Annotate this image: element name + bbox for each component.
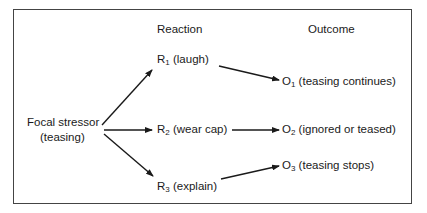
reaction-r1: R1 (laugh) bbox=[157, 53, 209, 66]
header-reaction: Reaction bbox=[157, 23, 202, 36]
arrow-r1-o1 bbox=[219, 66, 279, 80]
reaction-r2: R2 (wear cap) bbox=[157, 123, 227, 136]
outcome-o3: O3 (teasing stops) bbox=[282, 159, 374, 172]
stressor-line2: (teasing) bbox=[40, 131, 85, 144]
reaction-r3: R3 (explain) bbox=[157, 180, 217, 193]
arrow-stressor-r3 bbox=[104, 134, 153, 176]
arrow-r3-o3 bbox=[221, 166, 279, 179]
outcome-o1: O1 (teasing continues) bbox=[282, 75, 396, 88]
arrow-stressor-r1 bbox=[102, 70, 152, 125]
outcome-o2: O2 (ignored or teased) bbox=[282, 123, 396, 136]
stressor-line1: Focal stressor bbox=[27, 116, 99, 129]
header-outcome: Outcome bbox=[308, 23, 355, 36]
